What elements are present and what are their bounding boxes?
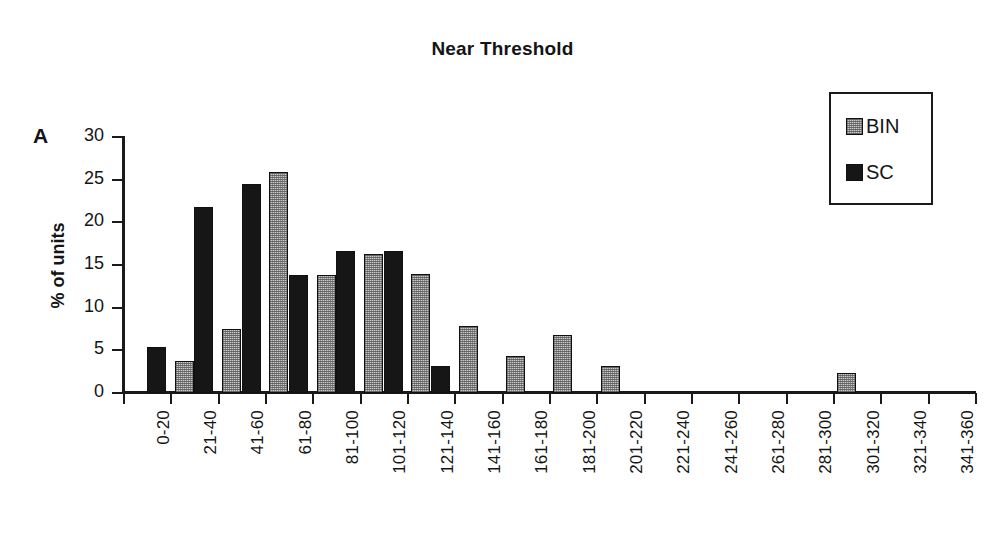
x-axis-tick: [691, 393, 693, 404]
x-axis-tick: [502, 393, 504, 404]
bar-bin-181-200: [553, 335, 572, 393]
x-axis-tick-label: 181-200: [580, 410, 600, 474]
y-axis-tick: [112, 136, 123, 138]
y-axis-tick-label: 20: [58, 211, 104, 229]
chart-figure: Near Threshold A % of units 051015202530…: [0, 0, 1005, 547]
x-axis-tick: [123, 393, 125, 404]
x-axis-tick-label: 261-280: [769, 410, 789, 474]
x-axis-tick-label: 101-120: [390, 410, 410, 474]
legend-swatch-sc-icon: [846, 164, 863, 181]
panel-label: A: [33, 124, 48, 148]
x-axis-tick: [265, 393, 267, 404]
x-axis-tick: [928, 393, 930, 404]
x-axis-tick-label: 161-180: [532, 410, 552, 474]
legend-label-sc: SC: [866, 162, 894, 182]
legend-swatch-bin-icon: [846, 118, 863, 135]
chart-legend: BIN SC: [829, 92, 933, 205]
x-axis-tick-label: 321-340: [911, 410, 931, 474]
bar-bin-301-320: [837, 373, 856, 393]
bar-bin-161-180: [506, 356, 525, 393]
y-axis-tick: [112, 392, 123, 394]
x-axis-tick: [596, 393, 598, 404]
x-axis-tick-label: 221-240: [674, 410, 694, 474]
bar-bin-61-80: [269, 172, 288, 393]
bar-bin-101-120: [364, 254, 383, 393]
x-axis-tick-label: 201-220: [627, 410, 647, 474]
y-axis-tick-label: 5: [58, 339, 104, 357]
x-axis-tick: [975, 393, 977, 404]
bar-bin-21-40: [175, 361, 194, 393]
x-axis-tick-label: 281-300: [816, 410, 836, 474]
x-axis-tick-label: 41-60: [248, 410, 268, 454]
y-axis-tick: [112, 307, 123, 309]
x-axis-tick: [644, 393, 646, 404]
y-axis-tick-label: 25: [58, 169, 104, 187]
x-axis-tick: [360, 393, 362, 404]
x-axis-tick: [170, 393, 172, 404]
bar-sc-101-120: [384, 251, 403, 394]
bar-bin-121-140: [411, 274, 430, 393]
bar-sc-61-80: [289, 275, 308, 393]
bar-sc-0-20: [147, 347, 166, 393]
x-axis-tick-label: 0-20: [154, 410, 174, 445]
x-axis-tick-label: 141-160: [485, 410, 505, 474]
bar-bin-141-160: [459, 326, 478, 393]
bar-sc-41-60: [242, 184, 261, 393]
bar-bin-81-100: [317, 275, 336, 393]
x-axis-tick: [407, 393, 409, 404]
y-axis-tick: [112, 179, 123, 181]
x-axis-tick: [738, 393, 740, 404]
y-axis-tick-label: 0: [58, 382, 104, 400]
x-axis-tick-label: 341-360: [958, 410, 978, 474]
x-axis-tick-label: 121-140: [438, 410, 458, 474]
y-axis-tick: [112, 221, 123, 223]
x-axis-tick: [549, 393, 551, 404]
x-axis-tick: [312, 393, 314, 404]
legend-entry-bin: BIN: [846, 116, 899, 136]
y-axis-tick-label: 10: [58, 297, 104, 315]
legend-entry-sc: SC: [846, 162, 894, 182]
page-title: Near Threshold: [0, 38, 1005, 60]
y-axis-tick-label: 15: [58, 254, 104, 272]
bar-sc-81-100: [336, 251, 355, 393]
y-axis-tick: [112, 264, 123, 266]
x-axis-tick-label: 21-40: [201, 410, 221, 454]
x-axis-tick: [786, 393, 788, 404]
y-axis-tick-label: 30: [58, 126, 104, 144]
bar-sc-121-140: [431, 366, 450, 393]
bar-sc-21-40: [194, 207, 213, 393]
x-axis-tick: [833, 393, 835, 404]
legend-label-bin: BIN: [866, 116, 899, 136]
x-axis-tick: [454, 393, 456, 404]
x-axis-tick-label: 61-80: [296, 410, 316, 454]
x-axis-tick-label: 81-100: [343, 410, 363, 464]
y-axis-tick: [112, 349, 123, 351]
x-axis-tick: [218, 393, 220, 404]
bar-bin-41-60: [222, 329, 241, 393]
x-axis-tick: [880, 393, 882, 404]
bar-bin-201-220: [601, 366, 620, 393]
x-axis-tick-label: 301-320: [864, 410, 884, 474]
x-axis-tick-label: 241-260: [722, 410, 742, 474]
